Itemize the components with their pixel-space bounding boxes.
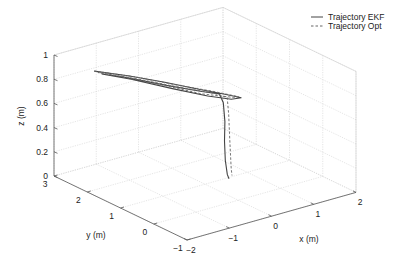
x-tick-label: 2 [358,197,363,207]
figure: −2−1012−1012300.20.40.60.81 z (m) y (m) … [0,0,398,257]
z-tick-label: 0 [43,171,48,181]
x-tick-label: −1 [228,233,238,243]
x-axis-label: x (m) [299,234,319,244]
y-tick-label: 2 [76,195,81,205]
series-trajectory-ekf [94,71,241,179]
z-tick-label: 0.2 [36,147,48,157]
z-tick-label: 1 [43,50,48,60]
x-tick-label: 1 [315,209,320,219]
z-tick-label: 0.4 [36,123,48,133]
y-tick-label: −1 [173,243,183,253]
z-axis-label: z (m) [16,106,26,126]
y-tick-label: 1 [109,211,114,221]
y-tick-label: 0 [142,227,147,237]
axes: −2−1012−1012300.20.40.60.81 [36,50,362,255]
z-tick-label: 0.6 [36,98,48,108]
legend-label-opt: Trajectory Opt [328,21,382,31]
series [94,71,241,179]
z-tick-label: 0.8 [36,74,48,84]
x-tick-label: 0 [273,221,278,231]
x-tick-label: −2 [186,245,196,255]
3d-trajectory-plot: −2−1012−1012300.20.40.60.81 z (m) y (m) … [0,0,398,257]
y-axis-label: y (m) [86,230,106,240]
legend: Trajectory EKF Trajectory Opt [311,12,384,31]
